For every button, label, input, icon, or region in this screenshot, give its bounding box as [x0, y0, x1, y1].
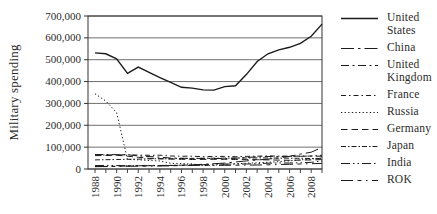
x-tick-label: 1990: [111, 176, 123, 199]
y-tick-label: 400,000: [45, 75, 81, 87]
x-tick-label: 2008: [305, 176, 317, 199]
y-tick-label: 600,000: [45, 31, 81, 43]
y-axis-title: Military spending: [6, 13, 23, 173]
x-tick-label: 1992: [132, 176, 144, 198]
legend-item-germany: Germany: [341, 122, 436, 135]
legend-line-sample: [341, 41, 378, 54]
legend-line-sample: [341, 11, 378, 24]
y-tick-label: 500,000: [45, 53, 81, 65]
legend-line-sample: [341, 58, 378, 71]
legend-line-sample: [341, 88, 378, 101]
legend-item-india: India: [341, 156, 436, 169]
legend-item-japan: Japan: [341, 139, 436, 152]
legend-label: ROK: [387, 173, 412, 186]
legend-line-sample: [341, 173, 378, 186]
legend-line-sample: [341, 156, 378, 169]
x-tick-label: 2002: [240, 176, 252, 198]
x-tick-label: 1994: [154, 176, 166, 199]
legend-item-united-states: United States: [341, 11, 436, 37]
legend-label: United Kingdom: [387, 58, 436, 84]
x-tick-label: 2000: [219, 176, 231, 199]
y-tick-label: 300,000: [45, 97, 81, 109]
legend-item-united-kingdom: United Kingdom: [341, 58, 436, 84]
x-tick-label: 1998: [197, 176, 209, 199]
chart-legend: United StatesChinaUnited KingdomFranceRu…: [341, 11, 436, 190]
figure-canvas: 0100,000200,000300,000400,000500,000600,…: [0, 0, 437, 214]
legend-line-sample: [341, 139, 378, 152]
x-tick-label: 1996: [175, 176, 187, 199]
series-line-india: [95, 161, 322, 166]
legend-item-china: China: [341, 41, 436, 54]
y-tick-label: 100,000: [45, 141, 81, 153]
y-tick-label: 0: [76, 163, 82, 175]
legend-label: China: [387, 41, 415, 54]
x-tick-label: 2006: [284, 176, 296, 199]
legend-line-sample: [341, 122, 378, 135]
series-line-rok: [95, 163, 322, 166]
legend-label: United States: [387, 11, 436, 37]
legend-label: France: [387, 88, 420, 101]
x-tick-label: 2004: [262, 176, 274, 199]
legend-label: Russia: [387, 105, 419, 118]
legend-line-sample: [341, 105, 378, 118]
y-tick-label: 200,000: [45, 119, 81, 131]
plot-border: [88, 16, 322, 169]
legend-label: Japan: [387, 139, 414, 152]
legend-label: India: [387, 156, 412, 169]
legend-label: Germany: [387, 122, 431, 135]
series-line-united-states: [95, 24, 322, 90]
legend-item-rok: ROK: [341, 173, 436, 186]
legend-item-russia: Russia: [341, 105, 436, 118]
x-tick-label: 1988: [89, 176, 101, 199]
y-tick-label: 700,000: [45, 10, 81, 22]
legend-item-france: France: [341, 88, 436, 101]
